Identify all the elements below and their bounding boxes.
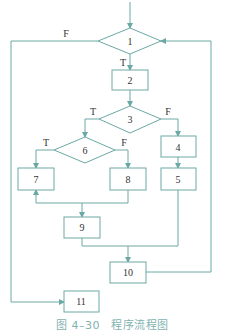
node-label-9: 9 (80, 222, 85, 233)
edge-3-6 (85, 119, 99, 137)
node-label-10: 10 (123, 267, 133, 278)
node-label-2: 2 (128, 75, 133, 86)
edge-6-7 (36, 150, 54, 168)
edge-label-3-true: T (90, 106, 96, 117)
node-label-4: 4 (176, 142, 181, 153)
edge-label-1-true: T (120, 57, 126, 68)
node-label-1: 1 (128, 36, 133, 47)
edge-label-6-false: F (121, 137, 127, 148)
flowchart: 1 2 3 4 5 6 7 8 9 10 11 F T T F T F (0, 0, 225, 333)
edge-label-3-false: F (165, 106, 171, 117)
node-label-11: 11 (76, 296, 86, 307)
figure-caption: 图 4–30 程序流程图 (0, 316, 225, 332)
node-label-7: 7 (34, 174, 39, 185)
edge-8-7 (36, 190, 128, 203)
node-label-5: 5 (176, 174, 181, 185)
node-label-8: 8 (126, 174, 131, 185)
edge-3-4 (161, 119, 178, 136)
node-label-3: 3 (128, 114, 133, 125)
edge-label-1-false: F (63, 28, 69, 39)
edge-6-8 (115, 150, 128, 168)
node-label-6: 6 (83, 145, 88, 156)
edge-label-6-true: T (43, 137, 49, 148)
